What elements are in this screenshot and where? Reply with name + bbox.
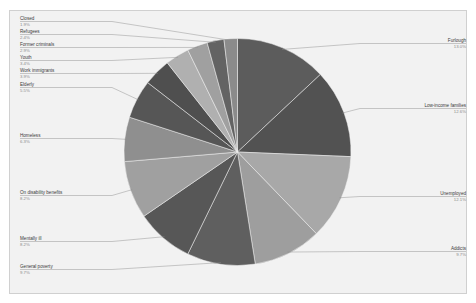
leader-line [20, 57, 178, 60]
leader-line [282, 44, 466, 50]
slice-label-percent: 5.5% [20, 88, 30, 93]
slice-label-percent: 9.7% [20, 270, 30, 275]
slice-label-percent: 9.7% [456, 252, 466, 257]
slice-label-name: Mentally ill [20, 236, 41, 241]
slice-label-name: Unemployed [440, 191, 466, 196]
slice-label-name: Homeless [20, 133, 41, 138]
slice-label-name: Closed [20, 16, 35, 21]
slice-label-percent: 6.3% [20, 139, 30, 144]
slice-label-name: Addicts [451, 246, 467, 251]
slice-label-percent: 8.2% [20, 242, 30, 247]
leader-line [20, 237, 165, 242]
slice-label-name: Work immigrants [20, 68, 55, 73]
slice-label-percent: 1.9% [20, 22, 30, 27]
chart-screenshot: Furlough13.0%Low-income families12.6%Une… [0, 0, 476, 303]
leader-line [342, 109, 466, 114]
slice-label-percent: 2.9% [20, 48, 30, 53]
slice-label-percent: 2.4% [20, 35, 30, 40]
slice-label-name: Elderly [20, 82, 35, 87]
slice-label-name: Low-income families [424, 103, 466, 108]
slice-label-percent: 12.1% [454, 197, 466, 202]
slice-label-name: Former criminals [20, 42, 55, 47]
pie-slices-group [124, 38, 351, 265]
slice-label-percent: 13.0% [454, 44, 466, 49]
leader-line [20, 139, 126, 140]
leader-line [20, 22, 231, 41]
slice-label-name: General poverty [20, 264, 53, 269]
slice-label-percent: 3.4% [20, 61, 30, 66]
slice-label-name: On disability benefits [20, 190, 63, 195]
slice-label-name: Youth [20, 55, 32, 60]
pie-chart: Furlough13.0%Low-income families12.6%Une… [0, 0, 476, 303]
leader-line [340, 197, 467, 198]
leader-line [20, 88, 139, 100]
slice-label-name: Furlough [448, 38, 467, 43]
slice-label-percent: 3.9% [20, 74, 30, 79]
slice-label-percent: 12.6% [454, 109, 466, 114]
slice-label-name: Refugees [20, 29, 40, 34]
leader-line [287, 252, 466, 253]
slice-label-percent: 8.2% [20, 196, 30, 201]
